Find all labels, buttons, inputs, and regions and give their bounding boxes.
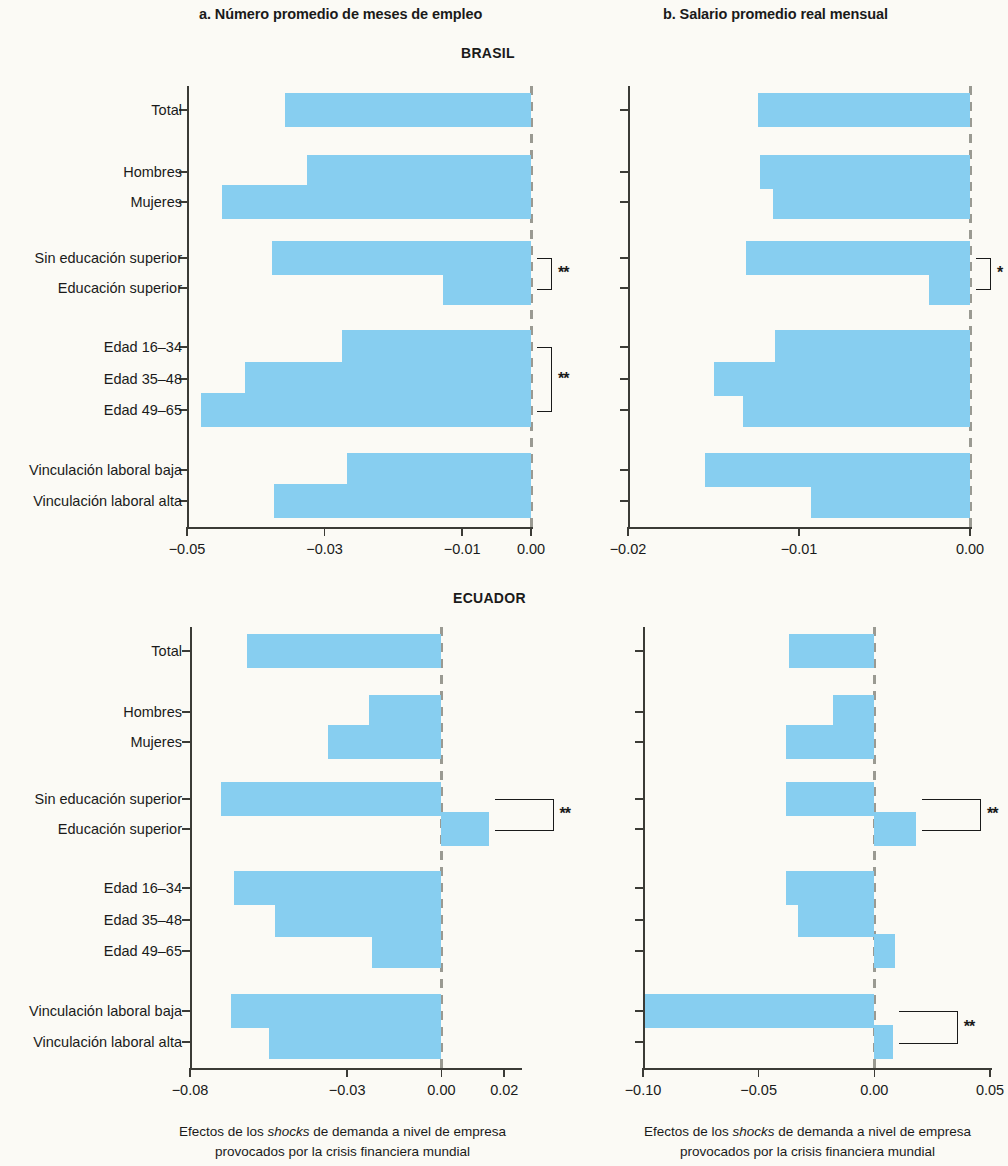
bar-ecuador-b-7 bbox=[874, 934, 895, 968]
ecuador-a-xtick-label-0: −0.08 bbox=[172, 1082, 209, 1098]
category-label-7: Edad 49–65 bbox=[0, 943, 182, 959]
brasil-a-sig-bracket-0 bbox=[537, 258, 552, 290]
ecuador-a-xtick-label-1: −0.03 bbox=[329, 1082, 366, 1098]
ecuador-a-xtick-3 bbox=[503, 1068, 505, 1077]
bar-brasil-b-1 bbox=[760, 155, 970, 189]
ecuador-b-xtick-2 bbox=[874, 1068, 876, 1077]
brasil-b-ytick-6 bbox=[620, 378, 629, 380]
brasil-b-ytick-4 bbox=[620, 287, 629, 289]
bar-brasil-a-1 bbox=[307, 155, 531, 189]
bar-brasil-b-0 bbox=[758, 93, 970, 127]
brasil-a-xtick-label-2: −0.01 bbox=[444, 541, 481, 557]
category-label-7: Edad 49–65 bbox=[0, 402, 182, 418]
brasil-b-ytick-8 bbox=[620, 469, 629, 471]
ecuador-b-x-axis bbox=[643, 1068, 992, 1070]
ecuador-b-ytick-6 bbox=[635, 919, 644, 921]
brasil-b-y-axis bbox=[628, 86, 630, 527]
bar-ecuador-a-6 bbox=[275, 903, 442, 937]
bar-ecuador-b-9 bbox=[874, 1025, 893, 1059]
ecuador-b-xtick-label-2: 0.00 bbox=[860, 1082, 888, 1098]
brasil-a-x-axis bbox=[187, 527, 533, 529]
caption-right-line2: provocados por la crisis financiera mund… bbox=[680, 1144, 935, 1159]
caption-left-line2: provocados por la crisis financiera mund… bbox=[215, 1144, 470, 1159]
brasil-b-sig-star-0: * bbox=[997, 264, 1002, 282]
ecuador-a-sig-bracket-0 bbox=[495, 799, 554, 831]
caption-right-line1: Efectos de los shocks de demanda a nivel… bbox=[644, 1124, 971, 1139]
ecuador-a-ytick-0 bbox=[182, 650, 191, 652]
bar-brasil-b-2 bbox=[773, 185, 970, 219]
ecuador-b-sig-bracket-0 bbox=[922, 799, 981, 831]
bar-brasil-a-4 bbox=[443, 271, 531, 305]
brasil-b-ytick-9 bbox=[620, 500, 629, 502]
brasil-b-xtick-0 bbox=[627, 527, 629, 536]
brasil-b-xtick-label-2: 0.00 bbox=[956, 541, 984, 557]
ecuador-a-ytick-4 bbox=[182, 828, 191, 830]
bar-ecuador-a-7 bbox=[372, 934, 441, 968]
ecuador-b-ytick-4 bbox=[635, 828, 644, 830]
category-label-0: Total bbox=[0, 643, 182, 659]
ecuador-b-sig-star-1: ** bbox=[964, 1018, 974, 1036]
bar-brasil-b-4 bbox=[929, 271, 970, 305]
bar-brasil-b-6 bbox=[714, 362, 971, 396]
country-title-brasil: BRASIL bbox=[461, 45, 515, 61]
category-label-4: Educación superior bbox=[0, 280, 182, 296]
bar-ecuador-b-1 bbox=[833, 695, 875, 729]
brasil-b-sig-bracket-0 bbox=[976, 258, 991, 290]
category-label-2: Mujeres bbox=[0, 734, 182, 750]
caption-left-line1: Efectos de los shocks de demanda a nivel… bbox=[179, 1124, 506, 1139]
bar-ecuador-b-4 bbox=[874, 812, 916, 846]
bar-brasil-b-7 bbox=[743, 393, 970, 427]
ecuador-b-xtick-label-1: −0.05 bbox=[740, 1082, 777, 1098]
bar-brasil-b-8 bbox=[705, 453, 970, 487]
category-label-6: Edad 35–48 bbox=[0, 371, 182, 387]
ecuador-b-ytick-1 bbox=[635, 711, 644, 713]
brasil-a-sig-star-1: ** bbox=[558, 370, 568, 388]
category-label-8: Vinculación laboral baja bbox=[0, 462, 182, 478]
bar-brasil-a-5 bbox=[342, 330, 531, 364]
category-label-9: Vinculación laboral alta bbox=[0, 1034, 182, 1050]
brasil-a-xtick-label-0: −0.05 bbox=[169, 541, 206, 557]
bar-ecuador-a-3 bbox=[221, 782, 441, 816]
bar-ecuador-b-0 bbox=[789, 634, 875, 668]
ecuador-b-ytick-7 bbox=[635, 950, 644, 952]
bar-ecuador-a-1 bbox=[369, 695, 441, 729]
bar-ecuador-a-2 bbox=[328, 725, 441, 759]
panel-a-title: a. Número promedio de meses de empleo bbox=[199, 6, 482, 22]
ecuador-b-xtick-3 bbox=[989, 1068, 991, 1077]
brasil-a-xtick-3 bbox=[530, 527, 532, 536]
brasil-b-ytick-0 bbox=[620, 109, 629, 111]
category-label-3: Sin educación superior bbox=[0, 250, 182, 266]
bar-brasil-a-7 bbox=[201, 393, 531, 427]
ecuador-b-ytick-5 bbox=[635, 887, 644, 889]
ecuador-a-ytick-1 bbox=[182, 711, 191, 713]
brasil-b-x-axis bbox=[628, 527, 972, 529]
ecuador-a-y-axis bbox=[190, 627, 192, 1068]
ecuador-a-ytick-3 bbox=[182, 798, 191, 800]
ecuador-b-ytick-0 bbox=[635, 650, 644, 652]
category-label-5: Edad 16–34 bbox=[0, 880, 182, 896]
ecuador-a-ytick-2 bbox=[182, 741, 191, 743]
brasil-a-xtick-1 bbox=[324, 527, 326, 536]
ecuador-b-xtick-1 bbox=[758, 1068, 760, 1077]
ecuador-a-xtick-2 bbox=[441, 1068, 443, 1077]
ecuador-b-sig-star-0: ** bbox=[987, 805, 997, 823]
brasil-b-ytick-1 bbox=[620, 171, 629, 173]
ecuador-a-xtick-1 bbox=[346, 1068, 348, 1077]
brasil-b-xtick-2 bbox=[969, 527, 971, 536]
ecuador-a-ytick-8 bbox=[182, 1010, 191, 1012]
bar-brasil-a-0 bbox=[285, 93, 531, 127]
brasil-b-ytick-3 bbox=[620, 257, 629, 259]
bar-brasil-b-5 bbox=[775, 330, 970, 364]
ecuador-b-sig-bracket-1 bbox=[899, 1011, 958, 1044]
ecuador-b-ytick-9 bbox=[635, 1041, 644, 1043]
bar-brasil-b-9 bbox=[811, 484, 970, 518]
bar-ecuador-b-8 bbox=[645, 994, 874, 1028]
bar-brasil-a-8 bbox=[347, 453, 531, 487]
ecuador-a-sig-star-0: ** bbox=[560, 805, 570, 823]
ecuador-b-ytick-3 bbox=[635, 798, 644, 800]
category-label-1: Hombres bbox=[0, 164, 182, 180]
brasil-a-y-axis bbox=[187, 86, 189, 527]
brasil-b-ytick-2 bbox=[620, 201, 629, 203]
bar-brasil-a-3 bbox=[272, 241, 531, 275]
category-label-0: Total bbox=[0, 102, 182, 118]
